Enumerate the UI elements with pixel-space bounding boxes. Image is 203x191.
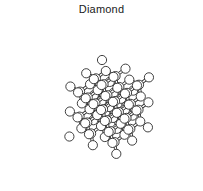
carbon-atom bbox=[89, 75, 98, 84]
carbon-atom bbox=[144, 98, 153, 107]
carbon-atom bbox=[144, 73, 153, 82]
carbon-atom bbox=[112, 108, 121, 117]
carbon-atom bbox=[143, 123, 152, 132]
figure-title: Diamond bbox=[0, 3, 203, 16]
carbon-atom bbox=[124, 125, 133, 134]
carbon-atom bbox=[124, 100, 133, 109]
carbon-atom bbox=[100, 116, 109, 125]
carbon-atom bbox=[82, 69, 91, 78]
carbon-atom bbox=[81, 94, 90, 103]
carbon-atom bbox=[84, 130, 93, 139]
carbon-atom bbox=[113, 83, 122, 92]
carbon-atom bbox=[120, 114, 129, 123]
carbon-atom bbox=[120, 89, 129, 98]
carbon-atom bbox=[73, 113, 82, 122]
diamond-figure: Diamond bbox=[0, 0, 203, 191]
carbon-atom bbox=[65, 132, 74, 141]
carbon-atom bbox=[101, 91, 110, 100]
carbon-atom bbox=[136, 117, 145, 126]
carbon-atom bbox=[96, 105, 105, 114]
carbon-atom bbox=[97, 80, 106, 89]
carbon-atom bbox=[65, 107, 74, 116]
carbon-atom bbox=[66, 82, 75, 91]
carbon-atom bbox=[108, 97, 117, 106]
carbon-atom bbox=[109, 72, 118, 81]
carbon-atom bbox=[128, 136, 137, 145]
carbon-atom bbox=[121, 64, 130, 73]
diamond-lattice-diagram bbox=[0, 18, 203, 191]
carbon-atom bbox=[112, 149, 121, 158]
bond-layer bbox=[65, 55, 154, 158]
carbon-atom bbox=[104, 127, 113, 136]
carbon-atom bbox=[108, 138, 117, 147]
carbon-atom bbox=[89, 100, 98, 109]
carbon-atom bbox=[101, 66, 110, 75]
carbon-atom bbox=[73, 88, 82, 97]
carbon-atom bbox=[88, 141, 97, 150]
carbon-atom bbox=[132, 81, 141, 90]
carbon-atom bbox=[97, 55, 106, 64]
carbon-atom bbox=[81, 119, 90, 128]
carbon-atom bbox=[136, 92, 145, 101]
carbon-atom bbox=[132, 106, 141, 115]
carbon-atom bbox=[125, 75, 134, 84]
